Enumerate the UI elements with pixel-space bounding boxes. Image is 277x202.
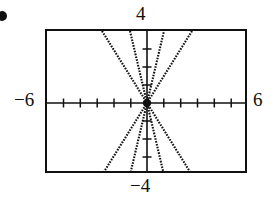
calculator-viewport <box>45 29 247 173</box>
y-min-label: −4 <box>130 176 150 195</box>
x-max-label: 6 <box>253 90 263 109</box>
x-min-label: −6 <box>14 90 34 109</box>
plot-canvas <box>47 31 247 173</box>
bullet-marker <box>0 11 7 21</box>
y-max-label: 4 <box>136 4 146 23</box>
origin-dot <box>143 99 151 107</box>
graph-figure: 4 −4 −6 6 <box>0 0 277 202</box>
